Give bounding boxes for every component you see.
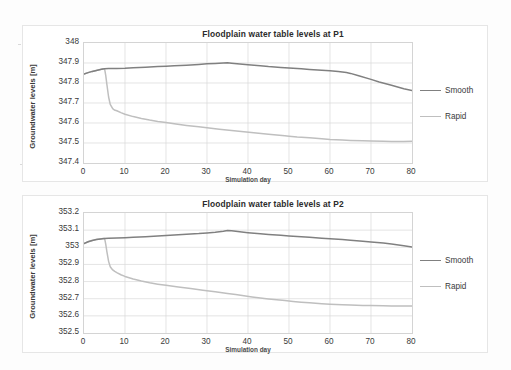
legend-item-smooth[interactable]: Smooth (420, 254, 473, 267)
plot-area-p2 (83, 212, 413, 334)
x-tick-label: 20 (160, 167, 169, 176)
chart-title-p1: Floodplain water table levels at P1 (23, 29, 487, 39)
y-tick-label: 348 (65, 38, 79, 46)
y-tick-label: 352.6 (59, 311, 80, 319)
x-tick-label: 60 (324, 337, 333, 346)
y-tick-label: 352.9 (59, 259, 80, 267)
x-tick-label: 30 (201, 337, 210, 346)
legend-label: Rapid (445, 282, 466, 291)
y-axis-ticks-p2: 353.2353.1353352.9352.8352.7352.6352.5 (37, 212, 79, 334)
y-tick-label: 347.4 (59, 158, 80, 166)
plot-area-p1 (83, 42, 413, 164)
x-tick-label: 60 (324, 167, 333, 176)
figure-canvas: Floodplain water table levels at P1 Grou… (0, 0, 511, 370)
x-tick-label: 40 (242, 337, 251, 346)
x-tick-label: 0 (81, 337, 86, 346)
x-tick-label: 10 (119, 337, 128, 346)
x-tick-label: 30 (201, 167, 210, 176)
x-tick-label: 20 (160, 337, 169, 346)
x-tick-label: 50 (283, 167, 292, 176)
y-tick-label: 352.7 (59, 294, 80, 302)
y-tick-label: 352.8 (59, 276, 80, 284)
legend-item-rapid[interactable]: Rapid (420, 110, 473, 123)
y-tick-label: 353 (65, 242, 79, 250)
y-tick-label: 347.7 (59, 98, 80, 106)
x-tick-label: 50 (283, 337, 292, 346)
legend-label: Smooth (445, 256, 473, 265)
legend-line-swatch-icon (420, 260, 441, 261)
scan-artifact (18, 44, 21, 45)
x-axis-title-p1: Simulation day (83, 176, 413, 183)
chart-title-p2: Floodplain water table levels at P2 (23, 199, 487, 209)
legend-p2: SmoothRapid (420, 254, 473, 306)
x-tick-label: 0 (81, 167, 86, 176)
legend-label: Rapid (445, 112, 466, 121)
x-tick-label: 80 (406, 167, 415, 176)
chart-panel-p2: Floodplain water table levels at P2 Grou… (22, 195, 488, 353)
chart-panel-p1: Floodplain water table levels at P1 Grou… (22, 25, 488, 182)
legend-item-smooth[interactable]: Smooth (420, 84, 473, 97)
x-tick-label: 40 (242, 167, 251, 176)
y-tick-label: 347.5 (59, 138, 80, 146)
y-tick-label: 353.1 (59, 225, 80, 233)
x-tick-label: 80 (406, 337, 415, 346)
y-axis-ticks-p1: 348347.9347.8347.7347.6347.5347.4 (37, 42, 79, 164)
y-tick-label: 352.5 (59, 328, 80, 336)
x-tick-label: 70 (365, 337, 374, 346)
x-tick-label: 70 (365, 167, 374, 176)
legend-p1: SmoothRapid (420, 84, 473, 136)
legend-item-rapid[interactable]: Rapid (420, 280, 473, 293)
y-tick-label: 347.9 (59, 58, 80, 66)
legend-line-swatch-icon (420, 116, 441, 117)
legend-line-swatch-icon (420, 286, 441, 287)
y-tick-label: 347.8 (59, 78, 80, 86)
x-axis-title-p2: Simulation day (83, 346, 413, 353)
legend-label: Smooth (445, 86, 473, 95)
y-tick-label: 347.6 (59, 118, 80, 126)
y-tick-label: 353.2 (59, 208, 80, 216)
x-tick-label: 10 (119, 167, 128, 176)
legend-line-swatch-icon (420, 90, 441, 91)
